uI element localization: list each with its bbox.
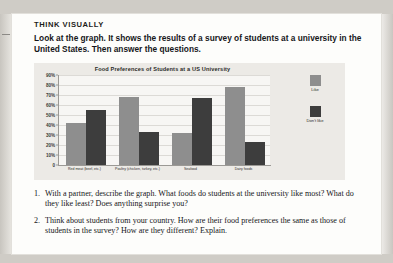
question-number: 1. xyxy=(34,189,45,210)
page-left-edge xyxy=(0,14,12,254)
margin-dash xyxy=(2,34,10,35)
y-tick-label: 0 xyxy=(53,163,55,168)
worksheet-page: THINK VISUALLY Look at the graph. It sho… xyxy=(12,14,381,254)
chart-bar xyxy=(172,133,192,165)
question-item: 2.Think about students from your country… xyxy=(34,216,364,237)
bar-group xyxy=(111,75,164,165)
section-intro: Look at the graph. It shows the results … xyxy=(34,33,364,55)
chart-bar xyxy=(139,132,159,165)
chart-bar xyxy=(225,87,245,165)
legend-item: Don't like xyxy=(293,106,337,123)
y-tick-label: 60% xyxy=(46,103,55,108)
chart-bar xyxy=(245,142,265,165)
y-tick-label: 10% xyxy=(46,153,55,158)
y-tick-label: 50% xyxy=(46,113,55,118)
chart-x-axis xyxy=(58,165,271,166)
question-text: With a partner, describe the graph. What… xyxy=(45,189,364,210)
y-tick-label: 20% xyxy=(46,143,55,148)
x-tick-label: Seafood xyxy=(184,167,197,171)
legend-label: Don't like xyxy=(293,118,337,123)
chart-y-tick-labels: 010%20%30%40%50%60%70%80%90% xyxy=(34,75,56,165)
bar-group xyxy=(217,75,270,165)
x-tick-label: Dairy foods xyxy=(235,167,253,171)
legend-item: Like xyxy=(293,75,337,92)
question-number: 2. xyxy=(34,216,45,237)
x-tick-label: Red meat (beef, etc.) xyxy=(68,167,101,171)
bar-group xyxy=(164,75,217,165)
page-content: THINK VISUALLY Look at the graph. It sho… xyxy=(34,20,364,243)
question-item: 1.With a partner, describe the graph. Wh… xyxy=(34,189,364,210)
chart-bar xyxy=(192,98,212,165)
legend-swatch xyxy=(310,75,321,86)
chart-bar xyxy=(86,110,106,165)
y-tick-label: 90% xyxy=(46,73,55,78)
questions-list: 1.With a partner, describe the graph. Wh… xyxy=(34,189,364,237)
chart-bar xyxy=(119,97,139,165)
x-tick-label: Poultry (chicken, turkey, etc.) xyxy=(115,167,160,171)
section-heading: THINK VISUALLY xyxy=(34,20,364,29)
y-tick-label: 80% xyxy=(46,83,55,88)
legend-swatch xyxy=(310,106,321,117)
chart-title: Food Preferences of Students at a US Uni… xyxy=(34,66,291,72)
bar-group xyxy=(58,75,111,165)
page-right-edge xyxy=(381,14,393,254)
y-tick-label: 70% xyxy=(46,93,55,98)
y-tick-label: 40% xyxy=(46,123,55,128)
legend-label: Like xyxy=(293,87,337,92)
chart-bars xyxy=(58,75,270,165)
y-tick-label: 30% xyxy=(46,133,55,138)
chart-panel: Food Preferences of Students at a US Uni… xyxy=(34,63,345,180)
question-text: Think about students from your country. … xyxy=(45,216,364,237)
chart-bar xyxy=(66,123,86,165)
chart-legend: LikeDon't like xyxy=(293,75,337,137)
